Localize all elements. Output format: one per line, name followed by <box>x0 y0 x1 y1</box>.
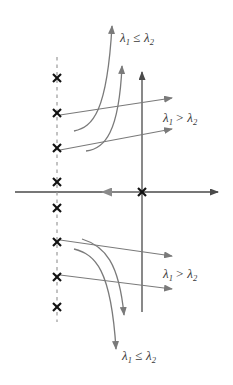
label-top: λ1≤λ2 <box>119 30 155 47</box>
curve-top-outer <box>74 26 112 131</box>
label-upper-right-operator: > <box>176 110 183 125</box>
label-lower-right-sub2: 2 <box>193 273 198 283</box>
label-bottom-sub1: 1 <box>128 355 132 365</box>
labels-group: λ1≤λ2 λ1>λ2 λ1>λ2 λ1≤λ2 <box>119 30 198 365</box>
cross-marker <box>53 204 61 212</box>
label-lower-right-operator: > <box>176 266 183 281</box>
arrow-upper-2 <box>60 129 172 150</box>
label-upper-right-sub2: 2 <box>193 117 198 127</box>
label-upper-right-sub1: 1 <box>169 117 173 127</box>
label-lower-right: λ1>λ2 <box>162 266 198 283</box>
cross-marker <box>53 273 61 281</box>
label-upper-right: λ1>λ2 <box>162 110 198 127</box>
curve-bottom-outer <box>74 249 116 349</box>
label-top-operator: ≤ <box>133 30 140 45</box>
label-bottom: λ1≤λ2 <box>121 348 157 365</box>
label-bottom-operator: ≤ <box>135 348 142 363</box>
eigenvalue-phase-diagram: λ1≤λ2 λ1>λ2 λ1>λ2 λ1≤λ2 <box>0 0 233 385</box>
straight-arrows-group <box>60 98 172 289</box>
arrow-lower-1 <box>60 240 172 256</box>
cross-marker <box>53 303 61 311</box>
diagram-canvas: λ1≤λ2 λ1>λ2 λ1>λ2 λ1≤λ2 <box>0 0 233 385</box>
curve-bottom-inner <box>82 239 124 315</box>
cross-marker <box>53 144 61 152</box>
label-top-sub1: 1 <box>126 37 130 47</box>
label-top-sub2: 2 <box>150 37 155 47</box>
arrow-lower-2 <box>60 275 172 289</box>
label-lower-right-sub1: 1 <box>169 273 173 283</box>
curved-arrows-group <box>74 26 124 349</box>
label-bottom-sub2: 2 <box>152 355 157 365</box>
